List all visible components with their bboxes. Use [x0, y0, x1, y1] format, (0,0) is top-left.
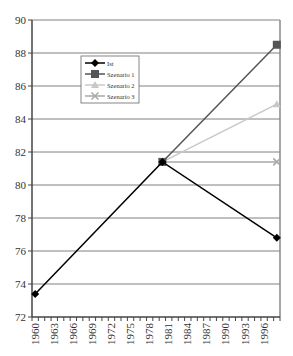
y-tick-label: 74 — [15, 278, 27, 290]
series-szenario-2 — [158, 100, 280, 165]
series-szenario-1 — [158, 41, 280, 166]
series-lines — [31, 41, 281, 298]
x-axis: 1960196319661969197219751978198119841987… — [29, 317, 280, 345]
legend-label: Szenario 1 — [107, 71, 135, 78]
x-tick-label: 1963 — [48, 323, 60, 346]
x-tick-label: 1975 — [124, 323, 136, 346]
legend-label: Ist — [107, 60, 114, 67]
x-tick-label: 1990 — [219, 323, 231, 346]
y-tick-label: 82 — [15, 146, 26, 158]
y-tick-label: 78 — [15, 212, 27, 224]
x-tick-label: 1972 — [105, 323, 117, 345]
series-line — [162, 45, 276, 162]
legend: IstSzenario 1Szenario 2Szenario 3 — [81, 56, 139, 103]
series-line — [35, 162, 277, 294]
y-tick-label: 76 — [15, 245, 27, 257]
x-tick-label: 1996 — [258, 323, 270, 346]
y-tick-label: 72 — [15, 311, 26, 323]
x-tick-label: 1993 — [239, 323, 251, 346]
y-tick-label: 80 — [15, 179, 27, 191]
x-tick-label: 1984 — [181, 323, 193, 346]
series-ist — [31, 158, 281, 298]
marker-square — [273, 41, 281, 49]
y-tick-label: 84 — [15, 113, 27, 125]
series-szenario-3 — [159, 158, 280, 165]
x-tick-label: 1960 — [29, 323, 41, 346]
y-axis: 72747678808284868890 — [15, 14, 32, 323]
legend-item: Szenario 1 — [85, 70, 135, 78]
x-tick-label: 1987 — [200, 323, 212, 346]
x-tick-label: 1981 — [162, 323, 174, 345]
x-tick-label: 1978 — [143, 323, 155, 346]
x-tick-label: 1966 — [67, 323, 79, 346]
y-tick-label: 90 — [15, 14, 27, 26]
x-tick-label: 1969 — [86, 323, 98, 346]
legend-item: Szenario 3 — [85, 93, 135, 100]
y-tick-label: 86 — [15, 80, 27, 92]
legend-label: Szenario 2 — [107, 82, 135, 89]
series-line — [162, 104, 276, 162]
legend-label: Szenario 3 — [107, 93, 135, 100]
line-chart: 72747678808284868890 1960196319661969197… — [0, 0, 293, 356]
marker-square — [91, 70, 99, 78]
y-tick-label: 88 — [15, 47, 27, 59]
